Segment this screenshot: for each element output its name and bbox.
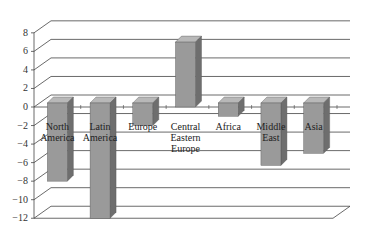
y-tick-label: −6 (2, 158, 28, 168)
floor-edge (34, 206, 350, 218)
gridline (34, 169, 350, 181)
y-tick-label: −8 (2, 176, 28, 186)
y-tick-label: 0 (2, 102, 28, 112)
gridline (34, 21, 350, 33)
gridline (34, 206, 350, 218)
y-tick-label: −10 (2, 195, 28, 205)
bar-side (110, 97, 116, 218)
gridline (34, 188, 350, 200)
chart-canvas (0, 0, 369, 234)
y-tick-label: 4 (2, 65, 28, 75)
bar (90, 97, 116, 218)
bar (176, 36, 202, 107)
bar-chart: 86420−2−4−6−8−10−12 NorthAmericaLatinAme… (0, 0, 369, 234)
bar-front (176, 42, 196, 107)
y-tick-label: 2 (2, 83, 28, 93)
y-tick-label: −2 (2, 121, 28, 131)
y-tick-label: −4 (2, 139, 28, 149)
bar-front (218, 103, 238, 116)
y-tick-label: 8 (2, 28, 28, 38)
bar-side (196, 36, 202, 107)
y-tick-label: 6 (2, 46, 28, 56)
bar (218, 97, 244, 116)
y-tick-label: −12 (2, 213, 28, 223)
category-label: Asia (289, 121, 339, 132)
